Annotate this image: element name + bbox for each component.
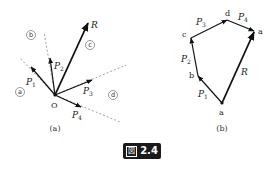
start-point [220, 101, 223, 104]
figure-kanji-label: 図 [126, 146, 137, 157]
polygon-p2-label: P2 [180, 54, 191, 65]
panel-b-caption: (b) [216, 124, 227, 133]
polygon-p4-label: P4 [237, 12, 248, 23]
vertex-c: c [182, 30, 187, 39]
svg-text:c: c [88, 41, 92, 49]
force-p4-label: P4 [71, 110, 82, 121]
polygon-resultant-arrow [222, 32, 254, 103]
resultant-label: R [90, 20, 98, 30]
figure-number-badge: 図 2.4 [123, 143, 161, 159]
origin-label: O [51, 101, 58, 110]
polygon-p1-label: P1 [197, 89, 208, 100]
region-d-label: d [109, 91, 118, 100]
force-p3-label: P3 [82, 86, 93, 97]
panel-a: O R P1 P2 P3 P4 a b c d (a) [16, 20, 127, 133]
region-c-label: c [86, 41, 95, 50]
region-a-label: a [16, 88, 25, 97]
svg-text:b: b [29, 31, 33, 39]
panel-b: a b c d a P1 P2 P3 P4 R (b) [180, 9, 263, 133]
vertex-a-start: a [219, 108, 224, 117]
svg-text:d: d [111, 91, 115, 99]
polygon-resultant-label: R [240, 67, 248, 77]
polygon-p3-label: P3 [195, 17, 206, 28]
figure-number: 2.4 [140, 143, 158, 159]
force-p1-label: P1 [25, 77, 36, 88]
force-p4-arrow [55, 95, 81, 107]
panel-a-caption: (a) [49, 124, 60, 133]
vertex-d: d [225, 9, 230, 18]
vertex-b: b [189, 71, 194, 80]
origin-point [53, 93, 56, 96]
force-p2-label: P2 [53, 61, 64, 72]
vertex-a-end: a [258, 27, 263, 36]
svg-text:a: a [18, 88, 22, 96]
region-b-label: b [27, 31, 36, 40]
